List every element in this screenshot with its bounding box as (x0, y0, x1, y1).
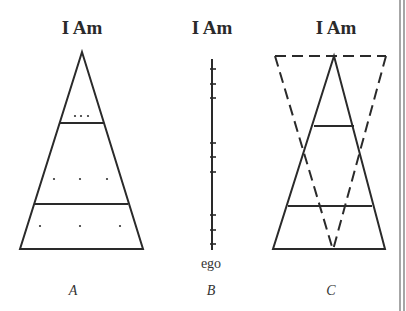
page-border (400, 0, 404, 311)
panel-c-solid-triangle (273, 56, 385, 249)
panel-b-caption: B (207, 283, 216, 299)
panel-b-title: I Am (192, 17, 233, 39)
panel-b-ego-line (210, 59, 216, 250)
panel-a-caption: A (69, 283, 78, 299)
panel-a-dots (39, 115, 121, 227)
panel-c-title: I Am (316, 17, 357, 39)
panel-b-ego-label: ego (201, 256, 221, 272)
panel-c-dashed-inverted-triangle (275, 56, 386, 250)
panel-a-title: I Am (62, 17, 103, 39)
panel-a-triangle (20, 52, 143, 249)
diagram-figure: I Am I Am I Am ego A B C (0, 0, 406, 311)
panel-c-caption: C (326, 283, 335, 299)
